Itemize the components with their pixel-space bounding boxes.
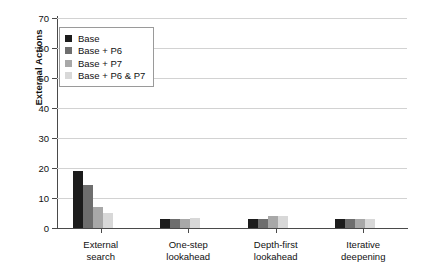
x-axis-category-label: Iterativedeepening <box>308 239 418 262</box>
bar <box>73 171 83 228</box>
y-axis-tick <box>52 228 57 229</box>
y-axis-tick-label: 0 <box>44 223 49 234</box>
y-axis-tick-label: 50 <box>38 73 49 84</box>
legend-item: Base + P6 & P7 <box>65 70 145 83</box>
legend-item: Base + P6 <box>65 45 145 58</box>
bar-group <box>160 18 200 228</box>
legend-swatch <box>65 35 72 42</box>
bar <box>180 219 190 228</box>
bar-group <box>335 18 375 228</box>
category-label-line2: deepening <box>308 251 418 263</box>
bar <box>160 219 170 228</box>
x-axis-tick <box>363 228 364 233</box>
y-axis-tick-label: 60 <box>38 43 49 54</box>
bar <box>355 219 365 228</box>
y-axis-tick-label: 10 <box>38 193 49 204</box>
legend-swatch <box>65 47 72 54</box>
x-axis-tick <box>188 228 189 233</box>
bar <box>103 213 113 228</box>
bar <box>190 218 200 229</box>
legend-item: Base + P7 <box>65 57 145 70</box>
bar <box>268 216 278 228</box>
legend-label: Base + P6 & P7 <box>78 70 145 81</box>
bar <box>258 219 268 228</box>
bar-chart: External Actions 010203040506070 Externa… <box>0 0 425 271</box>
bar <box>248 219 258 228</box>
legend-swatch <box>65 72 72 79</box>
x-axis-line <box>57 228 408 229</box>
y-axis-tick-label: 40 <box>38 103 49 114</box>
legend-swatch <box>65 60 72 67</box>
legend-label: Base <box>78 33 100 44</box>
chart-legend: BaseBase + P6Base + P7Base + P6 & P7 <box>59 27 154 87</box>
bar <box>335 219 345 228</box>
legend-item: Base <box>65 32 145 45</box>
legend-label: Base + P6 <box>78 45 122 56</box>
bar <box>83 185 93 229</box>
bar-group <box>248 18 288 228</box>
y-axis-tick-label: 20 <box>38 163 49 174</box>
y-axis-tick-label: 30 <box>38 133 49 144</box>
category-label-line1: Iterative <box>308 239 418 251</box>
bar <box>93 207 103 228</box>
bar <box>345 219 355 228</box>
x-axis-tick <box>101 228 102 233</box>
legend-label: Base + P7 <box>78 58 122 69</box>
bar <box>170 219 180 228</box>
bar <box>278 216 288 228</box>
bar <box>365 219 375 228</box>
y-axis-tick-label: 70 <box>38 13 49 24</box>
x-axis-tick <box>276 228 277 233</box>
